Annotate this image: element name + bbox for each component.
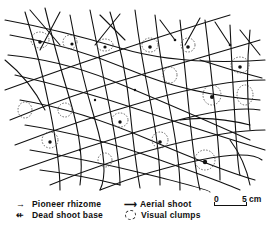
legend-item-aerial-shoot: ⟶ Aerial shoot: [124, 198, 201, 209]
rhizome-lines: [5, 8, 265, 192]
legend-label: Aerial shoot: [140, 199, 192, 209]
scale-tick-right: [246, 202, 247, 206]
legend-label: Dead shoot base: [32, 210, 103, 220]
legend-label: Pioneer rhizome: [32, 199, 101, 209]
rhizome-network-diagram: [0, 0, 270, 195]
legend-label: Visual clumps: [141, 210, 201, 220]
scale-end-label: 5 cm: [242, 194, 261, 204]
dead-shoot-icon: ⇷: [16, 210, 32, 220]
aerial-arrow-icon: ⟶: [124, 199, 140, 209]
dashed-circle-icon: [125, 210, 136, 220]
arrow-icon: →: [16, 199, 32, 209]
legend-item-dead-shoot-base: ⇷ Dead shoot base: [16, 209, 103, 220]
legend-item-pioneer-rhizome: → Pioneer rhizome: [16, 198, 103, 209]
legend-left: → Pioneer rhizome ⇷ Dead shoot base: [16, 198, 103, 220]
legend-right: ⟶ Aerial shoot Visual clumps: [124, 198, 201, 220]
scale-bar: 0 5 cm: [212, 194, 268, 212]
scale-line: [214, 205, 247, 206]
shoot-dots: [38, 39, 242, 165]
legend-item-visual-clumps: Visual clumps: [124, 209, 201, 220]
